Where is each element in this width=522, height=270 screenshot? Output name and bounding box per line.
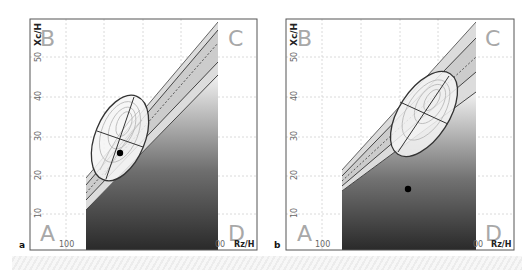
x-axis-label: Rz/H — [234, 240, 254, 249]
y-tick-40: 40 — [34, 91, 43, 101]
panel-a: B C A D Xc/H 50 40 30 20 10 100 00 Rz/H … — [19, 19, 257, 250]
quadrant-label-a: A — [40, 221, 55, 246]
y-tick-10: 10 — [290, 208, 299, 218]
panel-label-a: a — [19, 240, 25, 250]
quadrant-label-c: C — [228, 26, 243, 51]
y-tick-10: 10 — [34, 208, 43, 218]
x-tick-100: 100 — [315, 240, 330, 249]
measurement-point — [405, 186, 411, 192]
x-axis-label: Rz/H — [491, 240, 511, 249]
y-axis-label: Xc/H — [33, 23, 43, 46]
x-tick-100: 100 — [59, 240, 74, 249]
panel-b: B C A D Xc/H 50 40 30 20 10 100 00 Rz/H … — [274, 19, 514, 250]
panel-label-b: b — [274, 240, 281, 250]
y-tick-30: 30 — [290, 131, 299, 141]
quadrant-label-a: A — [297, 221, 312, 246]
y-tick-labels: 50 40 30 20 10 — [34, 52, 43, 218]
y-tick-labels: 50 40 30 20 10 — [290, 52, 299, 218]
y-tick-50: 50 — [34, 52, 43, 62]
y-tick-20: 20 — [290, 170, 299, 180]
y-tick-20: 20 — [34, 170, 43, 180]
quadrant-label-c: C — [485, 26, 500, 51]
y-axis-label: Xc/H — [289, 23, 299, 46]
quadrant-label-b: B — [297, 26, 312, 51]
y-tick-50: 50 — [290, 52, 299, 62]
y-tick-40: 40 — [290, 91, 299, 101]
y-tick-30: 30 — [34, 131, 43, 141]
x-tick-end: 00 — [473, 240, 483, 249]
x-tick-end: 00 — [215, 240, 225, 249]
measurement-point — [117, 150, 123, 156]
